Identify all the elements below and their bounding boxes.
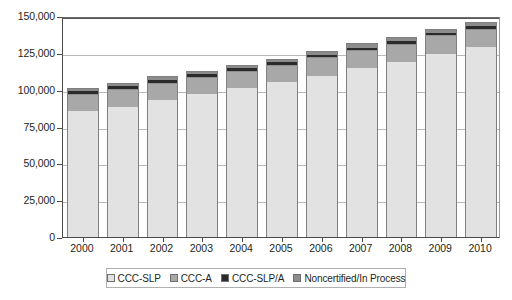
x-axis-tick-label: 2002 xyxy=(142,242,182,254)
bar-group[interactable] xyxy=(107,16,139,237)
legend-item-noncertified: Noncertified/In Process xyxy=(293,273,405,284)
bar-segment[interactable] xyxy=(466,29,496,47)
bar-group[interactable] xyxy=(266,16,298,237)
stacked-bar[interactable] xyxy=(107,83,139,237)
bar-segment[interactable] xyxy=(347,50,377,68)
stacked-bar-chart: 025,00050,00075,000100,000125,000150,000… xyxy=(0,0,512,300)
stacked-bar[interactable] xyxy=(186,71,218,237)
bar-group[interactable] xyxy=(425,16,457,237)
x-axis-tick-label: 2007 xyxy=(341,242,381,254)
x-axis-tick-label: 2010 xyxy=(460,242,500,254)
bar-segment[interactable] xyxy=(148,83,178,101)
stacked-bar[interactable] xyxy=(67,88,99,237)
plot-area xyxy=(62,17,500,238)
bar-group[interactable] xyxy=(346,16,378,237)
stacked-bar[interactable] xyxy=(386,37,418,237)
bar-group[interactable] xyxy=(186,16,218,237)
bar-segment[interactable] xyxy=(426,54,456,237)
bar-segment[interactable] xyxy=(148,100,178,237)
bar-group[interactable] xyxy=(147,16,179,237)
x-axis-tick-label: 2009 xyxy=(420,242,460,254)
bar-segment[interactable] xyxy=(466,47,496,237)
bar-segment[interactable] xyxy=(387,44,417,62)
y-axis-tick-label: 75,000 xyxy=(23,121,55,133)
bar-group[interactable] xyxy=(226,16,258,237)
bar-segment[interactable] xyxy=(187,94,217,237)
stacked-bar[interactable] xyxy=(266,59,298,237)
bar-segment[interactable] xyxy=(68,111,98,237)
x-axis-tick-label: 2006 xyxy=(301,242,341,254)
bar-segment[interactable] xyxy=(108,89,138,107)
legend-label-noncertified: Noncertified/In Process xyxy=(304,273,405,284)
legend-label-ccc-slp: CCC-SLP xyxy=(118,273,161,284)
stacked-bar[interactable] xyxy=(465,22,497,237)
legend-label-ccc-slp-a: CCC-SLP/A xyxy=(232,273,284,284)
legend-item-ccc-slp-a: CCC-SLP/A xyxy=(221,273,284,284)
legend-swatch-icon-ccc-a xyxy=(170,274,178,282)
bar-group[interactable] xyxy=(465,16,497,237)
y-axis-tick-mark xyxy=(57,238,62,239)
y-axis-tick-label: 0 xyxy=(49,231,55,243)
bar-group[interactable] xyxy=(386,16,418,237)
bar-segment[interactable] xyxy=(227,71,257,89)
bar-segment[interactable] xyxy=(267,65,297,83)
legend-label-ccc-a: CCC-A xyxy=(181,273,212,284)
y-axis-tick-label: 25,000 xyxy=(23,194,55,206)
x-axis-tick-label: 2003 xyxy=(181,242,221,254)
legend-swatch-icon-ccc-slp-a xyxy=(221,274,229,282)
bar-segment[interactable] xyxy=(267,82,297,237)
bar-segment[interactable] xyxy=(426,35,456,53)
bar-segment[interactable] xyxy=(307,57,337,75)
bar-segment[interactable] xyxy=(227,88,257,237)
bar-segment[interactable] xyxy=(68,94,98,111)
legend-swatch-icon-ccc-slp xyxy=(107,274,115,282)
y-axis-tick-label: 100,000 xyxy=(18,84,55,96)
stacked-bar[interactable] xyxy=(346,43,378,237)
legend-item-ccc-slp: CCC-SLP xyxy=(107,273,161,284)
y-axis-tick-label: 125,000 xyxy=(18,47,55,59)
x-axis-tick-label: 2008 xyxy=(381,242,421,254)
bar-group[interactable] xyxy=(67,16,99,237)
stacked-bar[interactable] xyxy=(226,65,258,237)
x-axis-tick-label: 2005 xyxy=(261,242,301,254)
chart-legend: CCC-SLP CCC-A CCC-SLP/A Noncertified/In … xyxy=(106,268,406,288)
y-axis-tick-label: 50,000 xyxy=(23,157,55,169)
bar-segment[interactable] xyxy=(387,62,417,237)
bar-segment[interactable] xyxy=(187,77,217,95)
x-axis-tick-label: 2000 xyxy=(62,242,102,254)
x-axis-tick-label: 2004 xyxy=(221,242,261,254)
stacked-bar[interactable] xyxy=(425,29,457,237)
stacked-bar[interactable] xyxy=(147,76,179,237)
bar-segment[interactable] xyxy=(347,68,377,237)
legend-swatch-icon-noncertified xyxy=(293,274,301,282)
bar-segment[interactable] xyxy=(307,76,337,237)
y-axis-tick-label: 150,000 xyxy=(18,10,55,22)
legend-item-ccc-a: CCC-A xyxy=(170,273,212,284)
bar-segment[interactable] xyxy=(108,107,138,237)
bar-group[interactable] xyxy=(306,16,338,237)
x-axis-tick-label: 2001 xyxy=(102,242,142,254)
stacked-bar[interactable] xyxy=(306,51,338,237)
